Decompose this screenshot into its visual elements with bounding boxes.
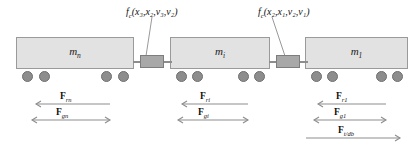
fc-args-3-2: (x₃,x₂,v₃,v₂)	[132, 6, 178, 17]
coupling-force-label-2-1: fc(x₂,x₁,v₂,v₁)	[258, 7, 310, 20]
coupling-force-label-3-2: fc(x₃,x₂,v₃,v₂)	[126, 7, 178, 20]
train-dynamics-diagram: mn mi m1 FrnFgnFriFgiFr1Fg1Ft/db fc(x₃,x…	[0, 0, 418, 155]
force-label-t/db: Ft/db	[338, 126, 354, 137]
force-arrow-t/db	[0, 0, 418, 155]
force-subscript: t/db	[344, 130, 354, 137]
fc-args-2-1: (x₂,x₁,v₂,v₁)	[264, 6, 310, 17]
